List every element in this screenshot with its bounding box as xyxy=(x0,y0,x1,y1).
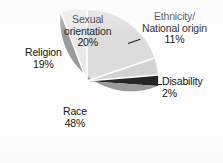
slice-label-ethnicity-line1: Ethnicity/ xyxy=(154,10,195,22)
slice-label-disability-line1: Disability xyxy=(162,75,203,87)
pie-chart-figure: Sexual orientation 20% Religion 19% Race… xyxy=(0,0,223,163)
slice-label-disability: Disability 2% xyxy=(162,76,203,99)
slice-value-ethnicity: 11% xyxy=(142,34,207,46)
slice-value-race: 48% xyxy=(63,118,87,130)
slice-label-religion: Religion 19% xyxy=(25,47,62,70)
slice-value-disability: 2% xyxy=(162,88,203,100)
slice-value-sexual-orientation: 20% xyxy=(64,37,111,49)
slice-label-race: Race 48% xyxy=(63,106,87,129)
slice-label-ethnicity-national-origin: Ethnicity/ National origin 11% xyxy=(142,11,207,46)
slice-label-ethnicity-line2: National origin xyxy=(142,22,207,34)
slice-label-religion-line1: Religion xyxy=(25,46,62,58)
slice-label-sexual-orientation-line2: orientation xyxy=(64,25,111,37)
leader-line-disability xyxy=(143,84,162,85)
slice-label-sexual-orientation: Sexual orientation 20% xyxy=(64,14,111,49)
slice-label-sexual-orientation-line1: Sexual xyxy=(72,13,103,25)
slice-value-religion: 19% xyxy=(25,59,62,71)
slice-label-race-line1: Race xyxy=(63,105,87,117)
